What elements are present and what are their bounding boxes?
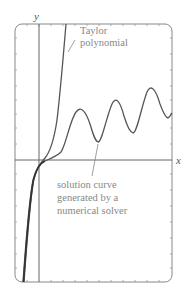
taylor-label-line1: Taylor [80,25,108,36]
solver-label-line1: solution curve [57,179,117,190]
solver-label-line3: numerical solver [57,205,128,216]
merged-curve-segment [24,161,46,282]
y-axis-label: y [33,10,39,22]
plot-figure: y x Taylor polynomial solution curve gen… [0,0,191,296]
solver-label-line2: generated by a [57,192,119,203]
x-axis-label: x [175,154,181,166]
taylor-pointer-line [68,40,75,52]
taylor-label-line2: polynomial [80,37,128,48]
